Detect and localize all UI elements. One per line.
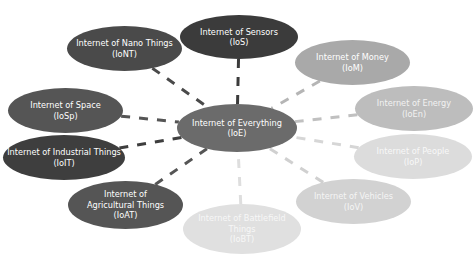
node-iont: Internet of Nano Things(IoNT) xyxy=(67,26,182,71)
connector-ios xyxy=(238,59,239,104)
node-abbreviation: (IoP) xyxy=(404,157,423,168)
node-label: Internet of Sensors xyxy=(200,27,278,38)
node-iov: Internet of Vehicles(IoV) xyxy=(296,179,411,224)
node-abbreviation: (IoSp) xyxy=(53,111,77,122)
node-iosp: Internet of Space(IoSp) xyxy=(8,88,123,133)
node-label: Internet of People xyxy=(377,146,450,157)
node-iobt: Internet of Battlefield Things(IoBT) xyxy=(183,204,301,254)
node-label: Internet of Industrial Things xyxy=(7,147,121,158)
node-ioat: Internet of Agricultural Things(IoAT) xyxy=(68,181,183,229)
node-label: Internet of Battlefield Things xyxy=(198,213,286,234)
node-abbreviation: (IoV) xyxy=(344,202,363,213)
node-abbreviation: (IoE) xyxy=(228,128,247,139)
node-abbreviation: (IoNT) xyxy=(112,49,137,60)
node-label: Internet of Agricultural Things xyxy=(83,189,168,210)
connector-ioen xyxy=(295,115,357,122)
node-label: Internet of Nano Things xyxy=(76,38,173,49)
connector-iosp xyxy=(121,116,179,122)
node-abbreviation: (IoIT) xyxy=(53,158,74,169)
center-node-ioe: Internet of Everything(IoE) xyxy=(177,104,297,152)
connector-ioit xyxy=(119,137,181,148)
node-abbreviation: (IoEn) xyxy=(402,109,426,120)
node-iom: Internet of Money(IoM) xyxy=(295,40,410,85)
connector-iont xyxy=(152,68,207,107)
node-label: Internet of Everything xyxy=(192,118,282,129)
connector-ioat xyxy=(155,149,207,185)
node-abbreviation: (IoM) xyxy=(342,63,363,74)
node-ioen: Internet of Energy(IoEn) xyxy=(355,86,473,131)
node-abbreviation: (IoBT) xyxy=(230,234,254,245)
node-ios: Internet of Sensors(IoS) xyxy=(180,15,298,59)
node-iop: Internet of People(IoP) xyxy=(354,134,472,179)
node-label: Internet of Space xyxy=(30,100,101,111)
connector-iop xyxy=(293,137,359,148)
node-label: Internet of Money xyxy=(316,52,389,63)
connector-iov xyxy=(269,148,323,182)
node-label: Internet of Vehicles xyxy=(314,191,393,202)
node-abbreviation: (IoS) xyxy=(229,37,248,48)
node-label: Internet of Energy xyxy=(377,98,451,109)
connector-iobt xyxy=(238,152,241,204)
connector-iom xyxy=(272,81,320,108)
node-ioit: Internet of Industrial Things(IoIT) xyxy=(3,135,125,180)
node-abbreviation: (IoAT) xyxy=(114,210,138,221)
